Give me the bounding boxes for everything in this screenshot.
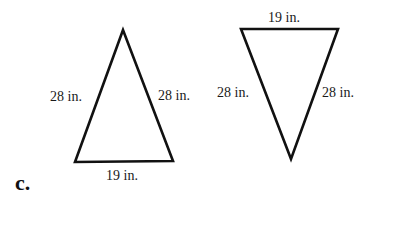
diagram-canvas: 28 in. 28 in. 19 in. 19 in. 28 in. 28 in… — [0, 0, 405, 237]
triangle1-left-side-label: 28 in. — [50, 90, 82, 104]
triangle2-left-side-label: 28 in. — [217, 86, 249, 100]
triangles-drawing — [0, 0, 405, 237]
triangle1-right-side-label: 28 in. — [158, 89, 190, 103]
triangle2-right-side-label: 28 in. — [322, 86, 354, 100]
triangle2-base-label: 19 in. — [268, 11, 300, 25]
triangle1-base-label: 19 in. — [106, 169, 138, 183]
part-label: c. — [15, 172, 30, 194]
